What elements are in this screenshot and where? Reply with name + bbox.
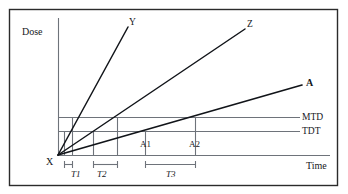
interval-label-t2: T2 [97,170,107,179]
y-axis-label: Dose [22,27,43,37]
curve-label-z: Z [247,20,253,30]
curve-label-y: Y [129,18,136,28]
x-axis-label: Time [306,161,327,171]
threshold-label-tdt: TDT [302,127,320,137]
origin-label: X [46,157,53,167]
interval-label-t3: T3 [166,170,176,179]
marker-label-a2: A2 [189,140,200,149]
marker-label-a1: A1 [140,140,151,149]
threshold-label-mtd: MTD [302,113,323,123]
curve-label-a: A [306,78,313,88]
interval-label-t1: T1 [71,170,81,179]
dose-time-diagram: Dose Time X Y Z A MTD TDT A1 A2 T1 T2 T3 [0,0,348,194]
